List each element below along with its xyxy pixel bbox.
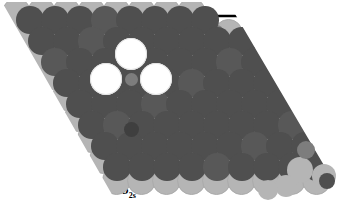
site-1-atom <box>125 73 138 86</box>
atom-stage <box>0 0 342 209</box>
edge-atom <box>297 141 315 159</box>
highlighted-adatom <box>115 38 147 70</box>
site-2-atom <box>124 122 139 137</box>
highlighted-adatom <box>90 63 122 95</box>
highlighted-adatom <box>140 63 172 95</box>
edge-atom <box>258 180 278 200</box>
edge-atom <box>275 175 297 197</box>
edge-atom <box>319 173 335 189</box>
atomic-surface-figure: 1 2 δ1s δ2s <box>0 0 342 209</box>
